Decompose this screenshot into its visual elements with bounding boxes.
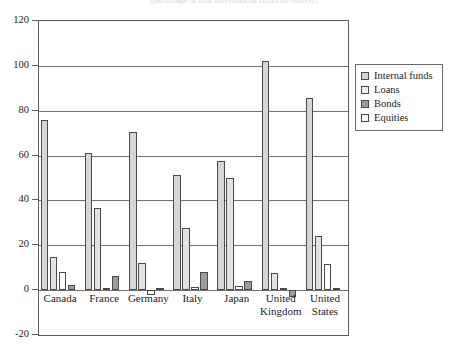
y-tick-label: 40 — [19, 194, 30, 204]
bar — [191, 287, 199, 290]
legend-label: Equities — [374, 112, 408, 123]
clipped-header-text: (percentage of total non-financial corpo… — [150, 0, 440, 4]
gridline — [39, 66, 348, 67]
chart-legend: Internal fundsLoansBondsEquities — [355, 64, 443, 131]
bar — [129, 132, 137, 290]
bar — [315, 236, 323, 290]
bar — [217, 161, 225, 290]
y-tick-label: -20 — [15, 329, 29, 339]
y-tick-label: 0 — [24, 284, 29, 294]
x-tick-label: United States — [295, 292, 355, 318]
legend-label: Internal funds — [374, 70, 433, 81]
bar — [103, 288, 111, 290]
bar — [244, 281, 252, 290]
legend-item: Equities — [361, 111, 437, 124]
x-axis: CanadaFranceGermanyItalyJapanUnited King… — [38, 292, 349, 336]
bar — [85, 153, 93, 290]
bar — [271, 273, 279, 290]
gridline — [39, 290, 348, 291]
y-tick-label: 60 — [19, 150, 30, 160]
plot-area — [39, 21, 348, 335]
bar — [94, 208, 102, 290]
bar — [59, 272, 67, 290]
legend-item: Loans — [361, 83, 437, 96]
y-tick-label: 20 — [19, 239, 30, 249]
bar — [41, 120, 49, 290]
bar — [156, 288, 164, 290]
gridline — [39, 111, 348, 112]
bar — [50, 257, 58, 291]
bar — [112, 276, 120, 291]
legend-label: Loans — [374, 84, 400, 95]
bar — [173, 175, 181, 291]
y-tick-label: 120 — [13, 15, 29, 25]
legend-swatch-icon — [361, 114, 369, 122]
y-tick-label: 80 — [19, 105, 30, 115]
legend-item: Bonds — [361, 97, 437, 110]
bar — [226, 178, 234, 290]
legend-item: Internal funds — [361, 69, 437, 82]
bar — [68, 285, 76, 291]
bar — [138, 263, 146, 290]
bar — [333, 288, 341, 290]
bar — [200, 272, 208, 290]
legend-label: Bonds — [374, 98, 401, 109]
legend-swatch-icon — [361, 86, 369, 94]
bar — [324, 264, 332, 290]
bar — [306, 98, 314, 290]
plot-frame — [38, 20, 349, 336]
bar — [182, 228, 190, 290]
bar — [235, 286, 243, 290]
legend-swatch-icon — [361, 100, 369, 108]
bar-chart-figure: (percentage of total non-financial corpo… — [0, 0, 450, 351]
legend-swatch-icon — [361, 72, 369, 80]
bar — [280, 288, 288, 290]
y-axis: -20020406080100120 — [0, 20, 36, 336]
y-tick-label: 100 — [13, 60, 29, 70]
bar — [262, 61, 270, 290]
